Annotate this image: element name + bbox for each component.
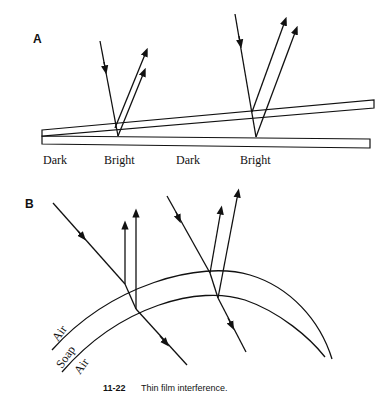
incident-arrow-icon <box>104 62 106 70</box>
incident-ray <box>100 41 118 136</box>
fringe-label-bright-1: Bright <box>104 153 135 167</box>
incident-arrow-icon <box>239 36 241 44</box>
soap-film-inner-surface <box>62 295 325 372</box>
transmitted-arrow-icon <box>160 336 166 343</box>
caption-number: 11-22 <box>103 383 126 393</box>
layer-label-air-outer: Air <box>49 323 70 344</box>
reflected-ray-top <box>210 210 221 273</box>
reflected-ray-bottom <box>218 193 238 298</box>
fringe-label-dark-2: Dark <box>176 153 200 167</box>
panel-a-label: A <box>33 32 42 46</box>
panel-b: B Air Soap Air <box>25 193 332 377</box>
refracted-ray <box>125 284 136 309</box>
panel-b-label: B <box>25 197 34 211</box>
reflected-ray-top <box>115 52 146 128</box>
ray-group-b-left <box>53 203 187 365</box>
reflected-ray-top <box>252 21 285 112</box>
refracted-ray <box>210 273 218 298</box>
caption-text: Thin film interference. <box>141 383 228 393</box>
fringe-label-bright-2: Bright <box>240 153 271 167</box>
fringe-label-dark-1: Dark <box>43 153 67 167</box>
thin-film-interference-figure: A Dark Bright Dark Bright B <box>0 0 389 409</box>
ray-group-b-right <box>167 193 246 352</box>
top-glass-plate <box>42 100 374 136</box>
incident-ray <box>167 196 210 273</box>
incident-arrow-icon <box>78 231 83 237</box>
figure-caption: 11-22 Thin film interference. <box>103 383 228 393</box>
incident-ray <box>53 203 125 284</box>
transmitted-arrow-icon <box>228 318 232 326</box>
bottom-glass-plate <box>42 136 370 148</box>
soap-film-outer-surface <box>52 271 332 359</box>
panel-a: A Dark Bright Dark Bright <box>33 14 374 167</box>
